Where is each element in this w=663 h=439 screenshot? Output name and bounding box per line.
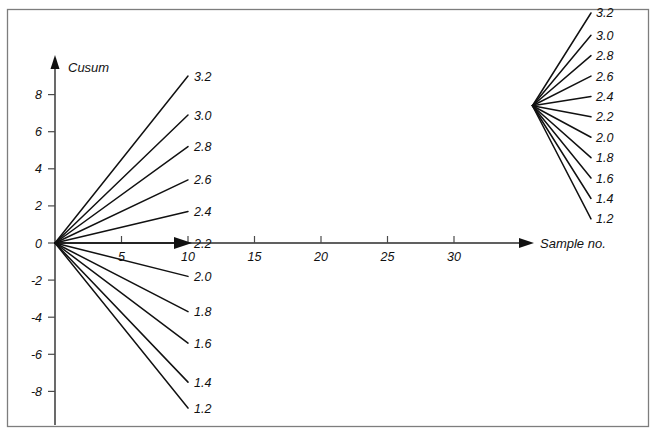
fan-line-right bbox=[532, 106, 591, 199]
y-tick-label: -2 bbox=[31, 274, 42, 288]
fan-label-left: 2.2 bbox=[193, 237, 211, 251]
fan-label-right: 1.2 bbox=[596, 212, 613, 226]
x-axis-title: Sample no. bbox=[540, 236, 606, 251]
fan-label-right: 2.8 bbox=[595, 49, 613, 63]
x-axis: 51015202530 bbox=[55, 236, 534, 264]
fan-label-right: 1.4 bbox=[596, 192, 613, 206]
fan-label-right: 2.4 bbox=[595, 90, 613, 104]
x-tick-label: 15 bbox=[248, 250, 262, 264]
y-axis: -8-6-4-202468 bbox=[31, 55, 60, 425]
fan-line-left bbox=[55, 243, 188, 408]
fan-label-right: 1.6 bbox=[596, 172, 613, 186]
fan-label-left: 2.8 bbox=[193, 140, 211, 154]
y-tick-label: 0 bbox=[35, 237, 42, 251]
fan-line-left bbox=[55, 180, 188, 243]
right-fan-labels: 3.23.02.82.62.42.22.01.81.61.41.2 bbox=[595, 6, 613, 226]
fan-line-right bbox=[532, 35, 591, 105]
y-tick-label: 4 bbox=[35, 162, 42, 176]
fan-label-left: 1.6 bbox=[194, 337, 211, 351]
x-tick-label: 25 bbox=[380, 250, 395, 264]
fan-label-left: 1.8 bbox=[194, 305, 211, 319]
right-fan-lines bbox=[532, 13, 591, 219]
fan-label-right: 3.0 bbox=[596, 29, 613, 43]
fan-line-right bbox=[532, 106, 591, 178]
x-tick-labels: 51015202530 bbox=[118, 250, 461, 264]
left-fan-22-arrowhead bbox=[174, 237, 192, 249]
fan-line-left bbox=[55, 147, 188, 243]
fan-line-left bbox=[55, 243, 188, 276]
fan-label-left: 3.0 bbox=[194, 109, 211, 123]
y-tick-label: 2 bbox=[34, 199, 42, 213]
y-axis-arrowhead bbox=[51, 55, 60, 69]
fan-label-left: 2.6 bbox=[193, 173, 211, 187]
x-tick-label: 10 bbox=[181, 250, 195, 264]
chart-canvas: -8-6-4-202468 51015202530 3.23.02.82.62.… bbox=[0, 0, 663, 439]
x-tick-label: 20 bbox=[313, 250, 328, 264]
fan-label-right: 3.2 bbox=[596, 6, 613, 20]
y-tick-label: 8 bbox=[35, 88, 42, 102]
fan-label-left: 2.0 bbox=[193, 270, 211, 284]
fan-label-right: 2.0 bbox=[595, 131, 613, 145]
x-tick-label: 30 bbox=[447, 250, 461, 264]
fan-label-left: 3.2 bbox=[194, 70, 211, 84]
fan-label-left: 2.4 bbox=[193, 205, 211, 219]
y-tick-label: 6 bbox=[35, 125, 42, 139]
fan-line-right bbox=[532, 106, 591, 219]
y-tick-label: -8 bbox=[31, 385, 42, 399]
y-tick-labels: -8-6-4-202468 bbox=[31, 88, 42, 399]
fan-label-left: 1.2 bbox=[194, 402, 211, 416]
y-tick-label: -6 bbox=[31, 348, 42, 362]
x-tick-marks bbox=[122, 236, 455, 243]
y-tick-label: -4 bbox=[31, 311, 42, 325]
fan-line-left bbox=[55, 115, 188, 243]
fan-line-left bbox=[55, 76, 188, 243]
y-tick-marks bbox=[48, 95, 55, 392]
x-tick-label: 5 bbox=[118, 250, 125, 264]
x-axis-arrowhead bbox=[519, 238, 534, 248]
fan-label-right: 2.6 bbox=[595, 70, 613, 84]
fan-label-right: 2.2 bbox=[595, 110, 613, 124]
fan-label-right: 1.8 bbox=[596, 151, 613, 165]
fan-line-right bbox=[532, 13, 591, 106]
left-fan-labels: 3.23.02.82.62.42.22.01.81.61.41.2 bbox=[193, 70, 211, 416]
cusum-chart-figure: -8-6-4-202468 51015202530 3.23.02.82.62.… bbox=[0, 0, 663, 439]
y-axis-title: Cusum bbox=[68, 60, 109, 75]
fan-label-left: 1.4 bbox=[194, 376, 211, 390]
